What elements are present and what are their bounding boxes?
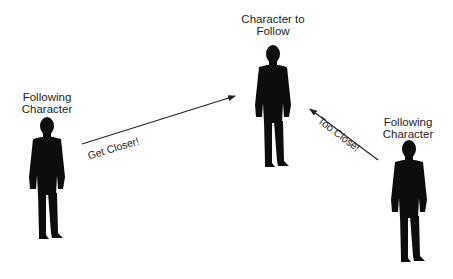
left-follower-label-line1: Following xyxy=(10,91,84,103)
left-follower-silhouette xyxy=(29,117,65,239)
target-character-silhouette xyxy=(255,45,291,167)
left-follower-label-line2: Character xyxy=(10,103,84,115)
right-follower-label-line2: Character xyxy=(371,128,445,140)
target-label: Character to Follow xyxy=(233,13,313,37)
left-follower-label: Following Character xyxy=(10,91,84,115)
right-follower-label-line1: Following xyxy=(371,116,445,128)
target-label-line1: Character to xyxy=(233,13,313,25)
target-label-line2: Follow xyxy=(233,25,313,37)
right-follower-silhouette xyxy=(391,140,427,262)
get-closer-arrow xyxy=(82,96,235,144)
right-follower-label: Following Character xyxy=(371,116,445,140)
